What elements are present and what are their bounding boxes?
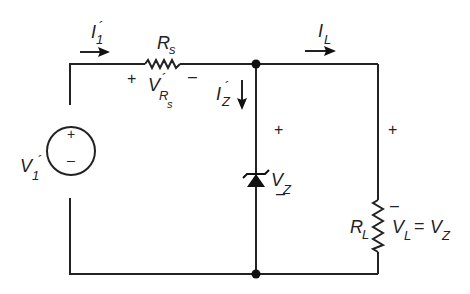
svg-text:+: +: [274, 121, 283, 138]
current-arrow-input: [80, 47, 110, 57]
label-load-current: I L: [318, 21, 331, 47]
label-source-voltage: V 1 ´: [20, 153, 42, 183]
load-resistor: [373, 200, 383, 252]
label-load-resistor: R L: [350, 217, 369, 242]
source-plus-sign: +: [67, 126, 75, 142]
svg-text:s: s: [167, 98, 173, 110]
svg-text:s: s: [169, 42, 176, 57]
svg-text:1: 1: [32, 168, 39, 183]
voltage-source: + –: [47, 126, 95, 175]
zener-regulator-circuit: + – I 1 ´ R s + – V ´ R s: [0, 0, 470, 294]
label-series-resistor: R s: [157, 33, 176, 57]
svg-text:I: I: [216, 84, 221, 104]
source-minus-sign: –: [67, 152, 75, 168]
series-resistor: [145, 60, 180, 68]
svg-text:´: ´: [161, 71, 166, 87]
label-zener-voltage: + V Z –: [271, 121, 292, 202]
svg-text:L: L: [324, 32, 331, 47]
node-top: [252, 60, 261, 69]
svg-text:L: L: [362, 227, 369, 242]
svg-text:–: –: [390, 197, 399, 214]
node-bottom: [252, 270, 261, 279]
svg-text:–: –: [188, 68, 197, 85]
svg-text:–: –: [276, 185, 285, 202]
svg-text:I: I: [318, 21, 323, 41]
svg-text:´: ´: [224, 79, 229, 95]
current-arrow-load: [305, 46, 336, 56]
label-load-voltage: + V L = V Z –: [388, 121, 451, 243]
svg-text:Z: Z: [221, 94, 231, 109]
svg-text:+: +: [388, 121, 397, 138]
svg-text:=: =: [414, 216, 425, 236]
svg-text:Z: Z: [441, 228, 451, 243]
label-series-voltage: + – V ´ R s: [127, 68, 197, 110]
label-input-current: I 1 ´: [91, 19, 103, 47]
svg-text:+: +: [127, 70, 136, 87]
svg-text:´: ´: [98, 19, 103, 35]
current-arrow-zener: [237, 80, 247, 110]
svg-text:´: ´: [37, 153, 42, 169]
svg-text:L: L: [404, 228, 411, 243]
label-zener-current: I Z ´: [216, 79, 231, 109]
